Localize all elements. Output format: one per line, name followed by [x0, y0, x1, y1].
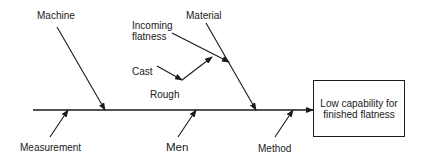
cause-label-cast: Cast — [132, 66, 153, 77]
material-bone — [206, 23, 256, 110]
men-bone — [178, 110, 196, 137]
machine-bone — [57, 27, 105, 110]
cause-label-material: Material — [186, 10, 222, 21]
effect-label: Low capability for finished flatness — [319, 98, 399, 120]
cause-label-measurement: Measurement — [20, 142, 81, 153]
effect-box: Low capability for finished flatness — [313, 80, 405, 137]
cause-label-machine: Machine — [37, 10, 75, 21]
cause-label-men: Men — [166, 142, 188, 153]
cause-label-incoming-flatness: Incoming flatness — [132, 20, 182, 42]
measurement-bone — [50, 110, 68, 137]
cast-bone — [157, 66, 182, 80]
method-bone — [275, 110, 293, 137]
cause-label-rough: Rough — [150, 89, 179, 100]
rough-bone — [182, 57, 212, 80]
cause-label-method: Method — [258, 143, 291, 154]
